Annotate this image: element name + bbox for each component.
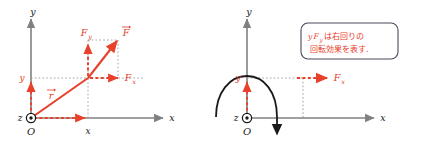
right-y-axis-label: y: [245, 6, 252, 17]
callout-formula-y: y: [307, 32, 313, 41]
left-panel: y x z O x y r F F y: [17, 6, 176, 137]
callout-text-line2: 回転効果を表す.: [310, 44, 369, 54]
left-origin-z-dot-icon: [29, 116, 32, 119]
right-panel: y x z O y F x y F y は右回りの 回転効果を表す.: [216, 6, 398, 137]
left-y-tick-label: y: [18, 73, 25, 83]
right-Fx-label-group: F x: [333, 72, 345, 86]
left-F-vector-label-group: F: [122, 25, 131, 38]
right-origin-z-label: z: [233, 113, 239, 123]
figure-root: y x z O x y r F F y: [0, 0, 422, 149]
left-Fy-label-group: F y: [80, 27, 92, 41]
left-force-vector-F: [88, 41, 117, 78]
left-Fx-label-base: F: [124, 72, 132, 83]
physics-figure-svg: y x z O x y r F F y: [0, 0, 422, 149]
right-origin-z-dot-icon: [245, 116, 248, 119]
right-x-axis-label: x: [380, 112, 386, 123]
callout-text-line1: は右回りの: [324, 31, 364, 41]
left-Fy-label-base: F: [80, 27, 88, 38]
left-Fx-label-group: F x: [124, 72, 136, 86]
left-r-overarrow-head-icon: [54, 88, 56, 91]
right-Fx-label-subscript: x: [341, 78, 345, 86]
left-F-overarrow-head-icon: [129, 25, 131, 28]
left-F-vector-label: F: [122, 27, 130, 38]
left-x-tick-label: x: [85, 126, 90, 136]
left-Fy-label-subscript: y: [87, 33, 92, 41]
left-y-axis-label: y: [29, 6, 36, 17]
right-origin-label: O: [243, 126, 251, 137]
left-Fx-label-subscript: x: [132, 78, 136, 86]
left-r-vector-label: r: [49, 90, 55, 101]
left-origin-z-label: z: [17, 113, 23, 123]
left-x-axis-label: x: [169, 112, 175, 123]
callout-formula-F: F: [312, 32, 319, 41]
right-Fx-label-base: F: [333, 72, 341, 83]
right-y-tick-label: y: [234, 73, 241, 83]
left-position-vector-r: [31, 78, 88, 118]
left-origin-label: O: [27, 126, 35, 137]
left-r-vector-label-group: r: [47, 88, 56, 101]
